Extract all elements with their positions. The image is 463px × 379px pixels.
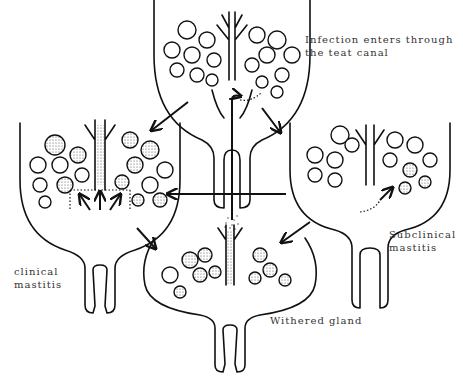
lobes-mixed	[307, 126, 437, 194]
label-subclinical-line1: Subclinical	[389, 228, 456, 241]
label-clinical-line1: clinical	[14, 265, 62, 278]
label-infection-line1: Infection enters through	[305, 33, 453, 46]
label-withered: Withered gland	[270, 314, 362, 327]
lobes-healthy	[164, 21, 300, 98]
gland-subclinical	[290, 123, 450, 308]
label-infection: Infection enters through the teat canal	[305, 33, 453, 59]
label-withered-line1: Withered gland	[270, 314, 362, 327]
label-subclinical-line2: mastitis	[389, 241, 456, 254]
arrow-infection-to-subclinical	[262, 108, 280, 132]
label-subclinical: Subclinical mastitis	[389, 228, 456, 254]
gland-infection	[154, 0, 310, 230]
label-infection-line2: the teat canal	[305, 46, 453, 59]
gland-withered	[144, 225, 317, 372]
label-clinical: clinical mastitis	[14, 265, 62, 291]
arrow-infection-to-clinical	[152, 102, 188, 130]
mastitis-diagram: Infection enters through the teat canal …	[0, 0, 463, 379]
label-clinical-line2: mastitis	[14, 278, 62, 291]
